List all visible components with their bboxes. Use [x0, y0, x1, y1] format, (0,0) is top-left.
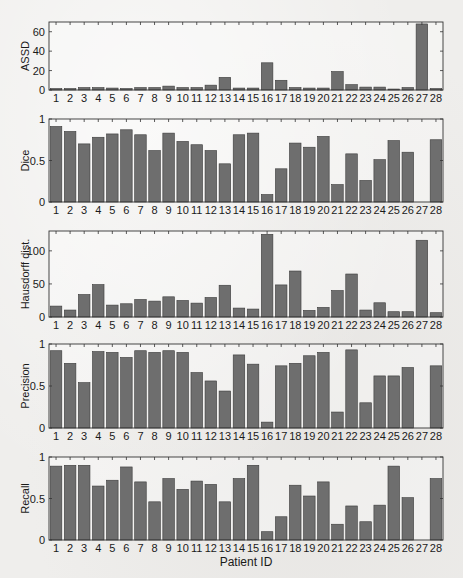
x-tick-label: 9	[166, 92, 172, 104]
bar-patient-7	[135, 135, 147, 202]
x-tick-label: 13	[219, 542, 231, 554]
x-tick-label: 19	[303, 319, 315, 331]
bar-patient-4	[92, 285, 104, 317]
x-tick-label: 3	[81, 92, 87, 104]
bar-patient-17	[275, 517, 287, 540]
bar-patient-12	[205, 151, 217, 202]
x-tick-label: 25	[388, 319, 400, 331]
bar-patient-25	[388, 376, 400, 428]
bar-patient-14	[233, 135, 245, 202]
bar-patient-9	[163, 479, 175, 540]
bar-patient-26	[402, 312, 414, 317]
x-tick-label: 24	[374, 319, 386, 331]
bar-patient-14	[233, 355, 245, 428]
x-tick-label: 19	[303, 542, 315, 554]
x-tick-label: 20	[317, 92, 329, 104]
x-tick-label: 5	[109, 542, 115, 554]
x-tick-label: 7	[137, 92, 143, 104]
x-tick-label: 20	[317, 430, 329, 442]
bar-patient-12	[205, 484, 217, 540]
bar-patient-28	[430, 479, 442, 540]
x-tick-label: 27	[416, 204, 428, 216]
x-tick-label: 27	[416, 92, 428, 104]
bar-patient-13	[219, 502, 231, 540]
x-tick-label: 1	[53, 542, 59, 554]
x-tick-label: 10	[177, 319, 189, 331]
panel-hausdorff-dist: 1234567891011121314151617181920212223242…	[19, 231, 443, 331]
x-tick-label: 12	[205, 319, 217, 331]
x-axis-title: Patient ID	[220, 555, 273, 569]
x-tick-label: 7	[137, 542, 143, 554]
x-tick-label: 21	[331, 430, 343, 442]
y-tick-label: 40	[33, 45, 45, 57]
x-tick-label: 23	[359, 430, 371, 442]
x-tick-label: 24	[374, 92, 386, 104]
bar-patient-16	[261, 195, 273, 202]
x-tick-label: 22	[345, 430, 357, 442]
bar-patient-22	[346, 85, 358, 90]
bar-patient-11	[191, 373, 203, 428]
bar-patient-5	[107, 134, 119, 202]
bar-patient-10	[177, 489, 189, 540]
bar-patient-9	[163, 351, 175, 428]
bar-patient-16	[261, 234, 273, 317]
bar-patient-24	[374, 505, 386, 540]
x-tick-label: 16	[261, 319, 273, 331]
bar-patient-20	[318, 352, 330, 428]
bar-patient-12	[205, 381, 217, 428]
bar-patient-2	[64, 131, 76, 202]
y-tick-label: 1	[39, 338, 45, 350]
bar-patient-10	[177, 352, 189, 428]
bar-patient-5	[107, 480, 119, 540]
bar-patient-16	[261, 532, 273, 540]
x-tick-label: 17	[275, 92, 287, 104]
y-axis-title: ASSD	[19, 41, 31, 71]
x-tick-label: 20	[317, 204, 329, 216]
x-tick-label: 5	[109, 430, 115, 442]
x-tick-label: 23	[359, 92, 371, 104]
bar-patient-27	[416, 240, 428, 317]
panel-precision: 1234567891011121314151617181920212223242…	[19, 338, 443, 442]
x-tick-label: 12	[205, 542, 217, 554]
bar-patient-2	[64, 465, 76, 540]
x-tick-label: 18	[289, 319, 301, 331]
x-tick-label: 22	[345, 542, 357, 554]
bar-patient-17	[275, 80, 287, 90]
bar-patient-6	[121, 467, 133, 540]
bar-patient-18	[289, 485, 301, 540]
x-tick-label: 25	[388, 430, 400, 442]
x-tick-label: 17	[275, 319, 287, 331]
x-tick-label: 18	[289, 542, 301, 554]
x-tick-label: 5	[109, 319, 115, 331]
x-tick-label: 28	[430, 319, 442, 331]
bar-patient-15	[247, 309, 259, 317]
bar-patient-14	[233, 479, 245, 540]
bar-patient-28	[430, 313, 442, 317]
bar-patient-21	[332, 412, 344, 428]
bar-patient-12	[205, 85, 217, 90]
x-tick-label: 6	[123, 430, 129, 442]
bar-patient-13	[219, 164, 231, 202]
bar-patient-9	[163, 297, 175, 317]
x-tick-label: 22	[345, 92, 357, 104]
x-tick-label: 17	[275, 542, 287, 554]
y-tick-label: 60	[33, 26, 45, 38]
x-tick-label: 20	[317, 319, 329, 331]
x-tick-label: 16	[261, 204, 273, 216]
bar-patient-14	[233, 308, 245, 317]
y-tick-label: 0	[39, 196, 45, 208]
x-tick-label: 21	[331, 204, 343, 216]
bar-patient-19	[304, 310, 316, 317]
x-tick-label: 6	[123, 542, 129, 554]
x-tick-label: 22	[345, 204, 357, 216]
bar-patient-2	[64, 363, 76, 428]
bar-patient-19	[304, 147, 316, 202]
x-tick-label: 13	[219, 204, 231, 216]
x-tick-label: 16	[261, 430, 273, 442]
bar-patient-8	[149, 502, 161, 540]
bar-patient-17	[275, 285, 287, 317]
bar-patient-8	[149, 301, 161, 317]
bar-patient-4	[92, 352, 104, 428]
bar-patient-23	[360, 522, 372, 540]
x-tick-label: 26	[402, 542, 414, 554]
